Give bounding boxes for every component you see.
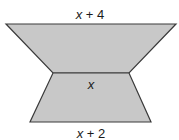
bottom-edge-label: x + 2 — [76, 126, 106, 140]
trapezoid-diagram: x + 4 x x + 2 — [0, 0, 179, 140]
upper-trapezoid — [6, 24, 176, 73]
middle-edge-label: x — [87, 77, 95, 92]
top-edge-label: x + 4 — [75, 7, 105, 22]
